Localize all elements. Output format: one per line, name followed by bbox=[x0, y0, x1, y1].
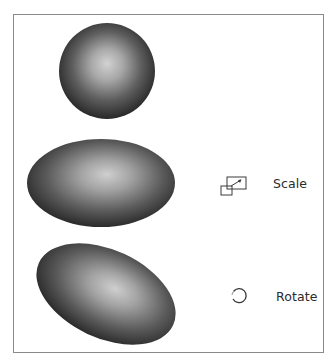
scaled-ellipse-shape bbox=[27, 139, 175, 227]
rotate-icon bbox=[229, 286, 249, 306]
scale-label: Scale bbox=[273, 176, 307, 191]
sphere-shape bbox=[59, 23, 155, 119]
scale-icon bbox=[219, 175, 249, 199]
rotated-ellipse-shape bbox=[20, 223, 191, 364]
rotate-label: Rotate bbox=[276, 289, 318, 304]
